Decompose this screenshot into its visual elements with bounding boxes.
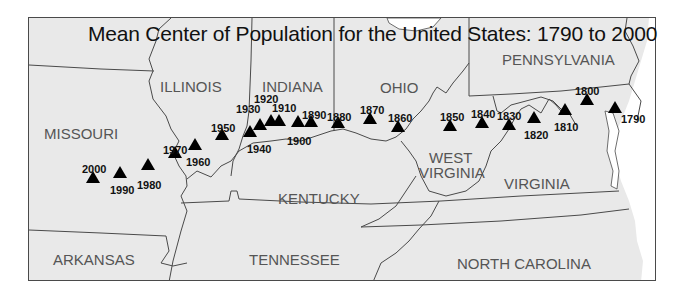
year-label-1970: 1970 — [163, 145, 187, 156]
year-label-1870: 1870 — [360, 105, 384, 116]
triangle-marker-icon — [527, 111, 541, 123]
state-label-kentucky: KENTUCKY — [278, 191, 360, 206]
triangle-marker-icon — [113, 166, 127, 178]
state-label-pennsylvania: PENNSYLVANIA — [502, 52, 615, 67]
year-label-1930: 1930 — [236, 104, 260, 115]
state-label-indiana: INDIANA — [262, 79, 323, 94]
year-label-1820: 1820 — [524, 130, 548, 141]
map-title: Mean Center of Population for the United… — [88, 22, 657, 46]
year-label-1890: 1890 — [302, 110, 326, 121]
year-label-1790: 1790 — [621, 114, 645, 125]
year-label-1880: 1880 — [327, 112, 351, 123]
state-label-illinois: ILLINOIS — [160, 79, 222, 94]
year-label-2000: 2000 — [82, 164, 106, 175]
triangle-marker-icon — [243, 125, 257, 137]
year-label-1960: 1960 — [186, 157, 210, 168]
year-label-1810: 1810 — [554, 122, 578, 133]
year-label-1940: 1940 — [247, 144, 271, 155]
year-label-1800: 1800 — [575, 86, 599, 97]
state-label-north-carolina: NORTH CAROLINA — [457, 256, 591, 271]
triangle-marker-icon — [608, 101, 622, 113]
triangle-marker-icon — [291, 115, 305, 127]
state-label-virginia: VIRGINIA — [504, 176, 570, 191]
year-label-1860: 1860 — [388, 113, 412, 124]
triangle-marker-icon — [558, 103, 572, 115]
year-label-1990: 1990 — [110, 185, 134, 196]
year-label-1950: 1950 — [211, 123, 235, 134]
year-label-1850: 1850 — [440, 112, 464, 123]
year-label-1830: 1830 — [497, 111, 521, 122]
triangle-marker-icon — [141, 158, 155, 170]
year-label-1900: 1900 — [287, 136, 311, 147]
year-label-1980: 1980 — [137, 180, 161, 191]
state-label-west: WEST — [429, 150, 472, 165]
state-label-missouri: MISSOURI — [44, 126, 118, 141]
state-label-ohio: OHIO — [380, 80, 418, 95]
year-label-1840: 1840 — [471, 109, 495, 120]
state-label-arkansas: ARKANSAS — [53, 252, 135, 267]
state-label-tennessee: TENNESSEE — [249, 252, 340, 267]
triangle-marker-icon — [188, 138, 202, 150]
state-label-virginia: VIRGINIA — [419, 165, 485, 180]
